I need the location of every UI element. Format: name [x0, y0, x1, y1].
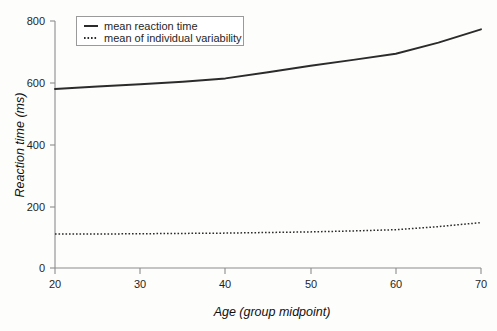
- x-tick-label-40: 40: [219, 278, 231, 290]
- y-tick-label-400: 400: [27, 139, 45, 151]
- chart-background: [0, 0, 497, 331]
- x-tick-label-70: 70: [475, 278, 487, 290]
- y-axis-title: Reaction time (ms): [13, 93, 27, 198]
- chart-legend: mean reaction time mean of individual va…: [77, 17, 244, 46]
- x-tick-label-30: 30: [134, 278, 146, 290]
- x-tick-label-20: 20: [49, 278, 61, 290]
- x-axis-title: Age (group midpoint): [213, 305, 331, 319]
- x-tick-label-50: 50: [305, 278, 317, 290]
- legend-label-mean-individual-variability: mean of individual variability: [104, 32, 242, 44]
- reaction-time-line-chart: 800 600 400 200 0 20 30 40 50 60 70 Reac…: [0, 0, 497, 331]
- y-tick-label-600: 600: [27, 77, 45, 89]
- x-tick-label-60: 60: [390, 278, 402, 290]
- y-tick-label-200: 200: [27, 201, 45, 213]
- legend-label-mean-reaction-time: mean reaction time: [104, 20, 198, 32]
- y-tick-label-800: 800: [27, 15, 45, 27]
- y-tick-label-0: 0: [39, 262, 45, 274]
- chart-figure: 800 600 400 200 0 20 30 40 50 60 70 Reac…: [0, 0, 497, 331]
